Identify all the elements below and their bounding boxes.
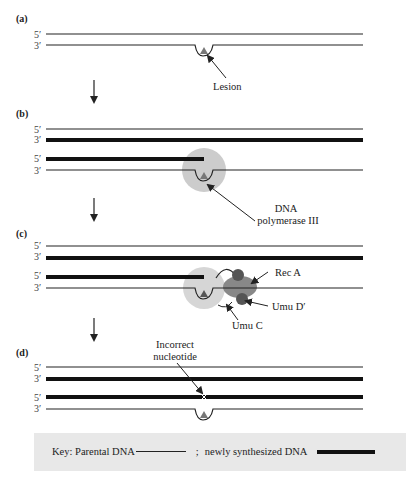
umud-icon bbox=[236, 293, 248, 305]
strand-end-label: 3′ bbox=[34, 373, 41, 384]
strand-end-label: 3′ bbox=[34, 40, 41, 51]
incorrect-nucleotide-label-line2: nucleotide bbox=[153, 351, 197, 362]
panel-d: (d) Incorrect nucleotide 5′ 3′ 5′ 3′ bbox=[16, 339, 363, 420]
reca-pointer-arrow bbox=[252, 272, 268, 283]
newly-synthesized-dna-swatch bbox=[317, 450, 375, 454]
umud-label: Umu D′ bbox=[272, 301, 306, 312]
umuc-bottom-arc bbox=[218, 302, 232, 307]
strand-end-label: 5′ bbox=[34, 153, 41, 164]
panel-c: (c) 5′ 3′ 5′ 3′ Rec A Umu D′ Umu C bbox=[16, 228, 363, 340]
umud-pointer-arrow bbox=[246, 301, 268, 306]
strand-end-label: 3′ bbox=[34, 282, 41, 293]
panel-label-d: (d) bbox=[16, 347, 28, 359]
lesion-icon bbox=[200, 47, 208, 54]
mutagenesis-diagram: (a) 5′ 3′ Lesion (b) 5′ 3′ 5′ 3′ DNA pol… bbox=[0, 0, 418, 488]
panel-a: (a) 5′ 3′ Lesion bbox=[16, 13, 363, 102]
lesion-label: Lesion bbox=[213, 81, 242, 92]
key-legend: Key: Parental DNA ; newly synthesized DN… bbox=[52, 446, 375, 457]
polymerase-pointer-arrow bbox=[208, 185, 255, 221]
reca-label: Rec A bbox=[275, 267, 301, 278]
strand-end-label: 3′ bbox=[34, 165, 41, 176]
parental-dna-swatch bbox=[136, 451, 186, 452]
polymerase-label-line1: DNA bbox=[275, 203, 298, 214]
strand-end-label: 3′ bbox=[34, 134, 41, 145]
umud-icon bbox=[232, 269, 244, 281]
panel-b: (b) 5′ 3′ 5′ 3′ DNA polymerase III bbox=[16, 108, 363, 226]
incorrect-nucleotide-label-line1: Incorrect bbox=[156, 339, 194, 350]
panel-label-c: (c) bbox=[16, 228, 27, 240]
panel-label-a: (a) bbox=[16, 13, 28, 25]
key-parental-label: Key: Parental DNA bbox=[52, 446, 135, 457]
panel-label-b: (b) bbox=[16, 108, 28, 120]
umuc-label: Umu C bbox=[232, 320, 263, 331]
umuc-pointer-arrow bbox=[227, 305, 238, 320]
key-newly-label: newly synthesized DNA bbox=[205, 446, 308, 457]
lesion-icon bbox=[200, 411, 208, 418]
strand-end-label: 3′ bbox=[34, 403, 41, 414]
strand-end-label: 5′ bbox=[34, 240, 41, 251]
lesion-pointer-arrow bbox=[208, 56, 226, 78]
strand-end-label: 5′ bbox=[34, 362, 41, 373]
strand-end-label: 3′ bbox=[34, 251, 41, 262]
strand-end-label: 5′ bbox=[34, 392, 41, 403]
polymerase-label-line2: polymerase III bbox=[257, 215, 319, 226]
strand-end-label: 5′ bbox=[34, 270, 41, 281]
key-separator: ; bbox=[196, 446, 199, 457]
strand-end-label: 5′ bbox=[34, 29, 41, 40]
